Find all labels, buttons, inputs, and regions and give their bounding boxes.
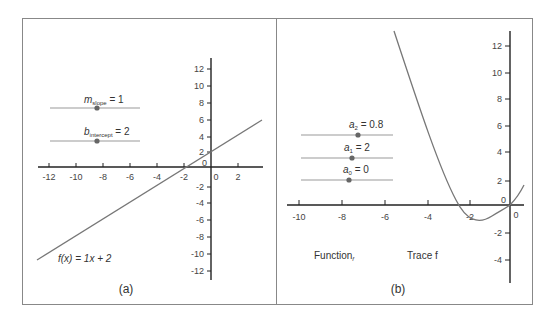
- x-tick: -10: [292, 212, 305, 222]
- slider-a1-handle[interactable]: [349, 155, 354, 160]
- slider-a0-handle[interactable]: [346, 177, 351, 182]
- y-tick: 12: [492, 41, 502, 51]
- function-toggle[interactable]: Functionf: [314, 250, 355, 262]
- y-tick: 2: [497, 176, 502, 186]
- y-tick: 4: [497, 147, 502, 157]
- trace-toggle[interactable]: Trace f: [407, 250, 438, 261]
- caption-b: (b): [391, 282, 406, 296]
- x-tick: -4: [424, 212, 432, 222]
- y-tick: 6: [497, 121, 502, 131]
- panel-b-graph: -10 -8 -6 -4 -2 0 12 10 8 6 4 2 0 -2 -4 …: [0, 0, 551, 323]
- x-tick: 0: [513, 210, 518, 220]
- slider-a2-label: a2 = 0.8: [349, 119, 384, 131]
- x-tick: -6: [381, 212, 389, 222]
- slider-a2-handle[interactable]: [355, 132, 360, 137]
- y-tick: -2: [494, 228, 502, 238]
- function-curve: [394, 31, 524, 220]
- y-tick: 0: [501, 195, 506, 205]
- y-tick: -4: [494, 255, 502, 265]
- y-tick: 8: [497, 94, 502, 104]
- x-tick: -8: [338, 212, 346, 222]
- y-tick: 10: [492, 68, 502, 78]
- slider-a0-label: a0 = 0: [343, 164, 369, 176]
- slider-a1-label: a1 = 2: [344, 142, 370, 154]
